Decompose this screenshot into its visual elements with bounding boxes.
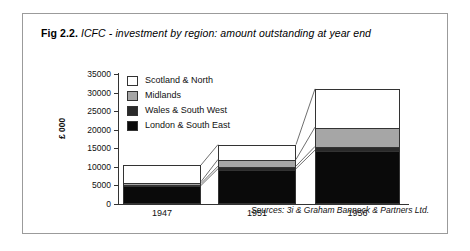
legend-item-label: Wales & South West — [145, 106, 227, 115]
figure-number: Fig 2.2. — [41, 27, 78, 39]
y-axis-tick-mark — [114, 93, 119, 94]
bar-segment[interactable] — [316, 151, 399, 204]
legend-item-label: Scotland & North — [145, 76, 213, 85]
stacked-bar-1947[interactable] — [123, 165, 201, 204]
x-axis-tick-label: 1947 — [152, 208, 172, 218]
y-axis-tick-label: 10000 — [87, 163, 111, 172]
stacked-bar-1951[interactable] — [218, 145, 296, 204]
y-axis-tick-mark — [114, 148, 119, 149]
figure-title: Fig 2.2. ICFC - investment by region: am… — [41, 27, 371, 39]
y-axis-tick-mark — [114, 74, 119, 75]
segment-connector-line — [296, 146, 315, 166]
bar-segment[interactable] — [316, 90, 399, 128]
bar-segment[interactable] — [219, 170, 295, 204]
y-axis-tick-mark — [114, 204, 119, 205]
bar-segment[interactable] — [316, 128, 399, 147]
y-axis-tick-label: 30000 — [87, 88, 111, 97]
sources-note: Sources: 3i & Graham Bannock & Partners … — [251, 205, 429, 215]
y-axis-tick-label: 20000 — [87, 125, 111, 134]
chart-legend: Scotland & NorthMidlandsWales & South We… — [127, 74, 230, 132]
segment-connector-line — [296, 127, 315, 159]
legend-item[interactable]: Wales & South West — [127, 104, 230, 117]
legend-item[interactable]: Midlands — [127, 89, 230, 102]
segment-connector-line — [201, 159, 218, 181]
figure-caption: ICFC - investment by region: amount outs… — [81, 27, 371, 39]
y-axis-title: £ 000 — [57, 118, 67, 139]
legend-item[interactable]: London & South East — [127, 119, 230, 132]
y-axis-tick-label: 0 — [106, 200, 111, 209]
segment-connector-line — [201, 169, 218, 186]
y-axis-tick-label: 25000 — [87, 107, 111, 116]
bar-segment[interactable] — [219, 146, 295, 161]
bar-segment[interactable] — [124, 166, 200, 183]
y-axis-tick-mark — [114, 167, 119, 168]
legend-item-label: Midlands — [145, 91, 181, 100]
segment-connector-line — [296, 89, 315, 145]
legend-swatch-icon — [127, 76, 138, 86]
legend-swatch-icon — [127, 106, 138, 116]
y-axis-tick-label: 5000 — [92, 181, 111, 190]
y-axis-tick-mark — [114, 111, 119, 112]
bar-segment[interactable] — [124, 186, 200, 204]
bar-segment[interactable] — [219, 160, 295, 167]
legend-item-label: London & South East — [145, 121, 230, 130]
segment-connector-line — [296, 150, 315, 169]
segment-connector-line — [201, 145, 218, 165]
legend-item[interactable]: Scotland & North — [127, 74, 230, 87]
segment-connector-line — [201, 166, 218, 183]
y-axis-tick-label: 35000 — [87, 70, 111, 79]
y-axis-tick-label: 15000 — [87, 144, 111, 153]
legend-swatch-icon — [127, 121, 138, 131]
y-axis-tick-mark — [114, 130, 119, 131]
y-axis-tick-mark — [114, 185, 119, 186]
legend-swatch-icon — [127, 91, 138, 101]
stacked-bar-1956[interactable] — [315, 89, 400, 204]
figure-frame: Fig 2.2. ICFC - investment by region: am… — [22, 13, 448, 234]
